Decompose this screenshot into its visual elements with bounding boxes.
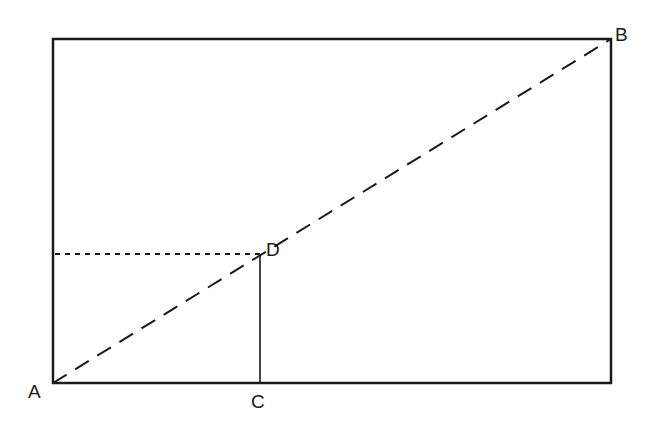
label-d: D — [266, 239, 280, 260]
label-a: A — [28, 381, 41, 402]
label-b: B — [615, 24, 628, 45]
label-c: C — [251, 391, 265, 412]
geometry-diagram: A B C D — [0, 0, 656, 426]
diagonal-ab — [53, 39, 611, 383]
